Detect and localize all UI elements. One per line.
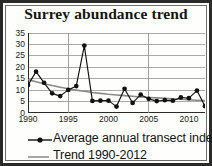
x-axis-tick-label: 2010	[179, 114, 198, 124]
legend-item-trend: Trend 1990-2012	[27, 146, 212, 163]
x-axis: 19901995200020052010	[28, 114, 205, 128]
y-axis: 05101520253035	[3, 33, 25, 113]
chart-legend: Average annual transect index Trend 1990…	[27, 129, 212, 163]
legend-marker-line-with-dot	[27, 132, 53, 144]
y-axis-tick-label: 10	[5, 86, 25, 94]
y-axis-tick-label: 30	[5, 40, 25, 48]
legend-label-average-index: Average annual transect index	[53, 131, 212, 145]
x-axis-tick-label: 2000	[99, 114, 118, 124]
y-axis-tick-label: 35	[5, 29, 25, 37]
y-axis-tick-label: 25	[5, 51, 25, 59]
x-axis-tick-label: 1995	[59, 114, 78, 124]
x-axis-tick-label: 1990	[19, 114, 38, 124]
average-index-series	[28, 46, 205, 107]
y-axis-tick-label: 20	[5, 63, 25, 71]
legend-item-average-index: Average annual transect index	[27, 129, 212, 146]
x-axis-tick-label: 2005	[139, 114, 158, 124]
y-axis-tick-label: 5	[5, 97, 25, 105]
plot-svg	[28, 33, 205, 113]
chart-title: Surrey abundance trend	[3, 5, 209, 23]
gridlines	[28, 33, 205, 113]
chart-figure: Surrey abundance trend 05101520253035 19…	[0, 0, 212, 166]
y-axis-tick-label: 15	[5, 74, 25, 82]
legend-label-trend: Trend 1990-2012	[53, 148, 147, 162]
plot-area	[28, 33, 205, 113]
legend-marker-plain-line	[27, 149, 53, 161]
